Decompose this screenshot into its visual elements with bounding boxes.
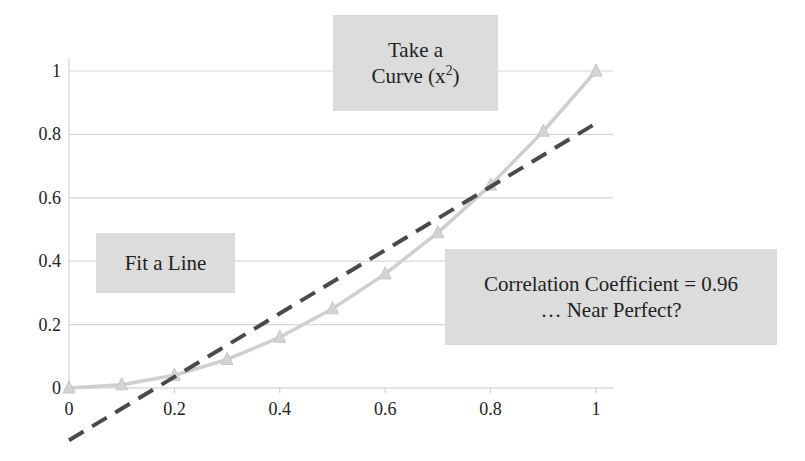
callout-correlation: Correlation Coefficient = 0.96 … Near Pe… — [445, 249, 777, 345]
x-tick-label: 0 — [65, 399, 74, 419]
x-tick-label: 0.8 — [479, 399, 502, 419]
callout-curve-line2-prefix: Curve (x — [372, 64, 446, 88]
x-tick-label: 0.2 — [163, 399, 186, 419]
callout-corr-line2: … Near Perfect? — [540, 297, 681, 323]
y-tick-label: 0.4 — [39, 251, 62, 271]
callout-curve-line2: Curve (x2) — [372, 63, 460, 89]
y-tick-label: 1 — [52, 61, 61, 81]
x-axis-tick-labels: 00.20.40.60.81 — [65, 399, 601, 419]
triangle-marker-icon — [590, 64, 602, 76]
y-tick-label: 0 — [52, 378, 61, 398]
y-tick-label: 0.8 — [39, 124, 62, 144]
callout-curve-line2-suffix: ) — [452, 64, 459, 88]
callout-line-text: Fit a Line — [125, 250, 207, 276]
y-tick-label: 0.2 — [39, 315, 62, 335]
callout-take-a-curve: Take a Curve (x2) — [333, 15, 498, 111]
y-axis-tick-labels: 00.20.40.60.81 — [39, 61, 62, 398]
x-tick-label: 0.4 — [269, 399, 292, 419]
callout-corr-line1: Correlation Coefficient = 0.96 — [484, 271, 738, 297]
x-tick-label: 1 — [592, 399, 601, 419]
x-tick-label: 0.6 — [374, 399, 397, 419]
callout-curve-line1: Take a — [388, 37, 443, 63]
y-tick-label: 0.6 — [39, 188, 62, 208]
callout-fit-a-line: Fit a Line — [96, 233, 235, 293]
